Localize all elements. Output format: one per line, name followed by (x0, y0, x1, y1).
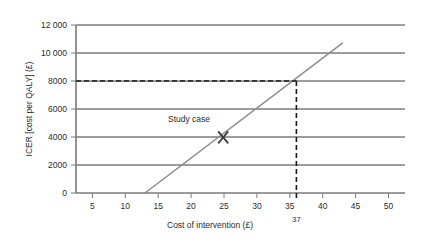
x-tick-label-45: 45 (351, 201, 361, 211)
y-tick-label-2000: 2000 (48, 160, 67, 170)
x-tick-label-5: 5 (90, 201, 95, 211)
y-tick-label-4000: 4000 (48, 132, 67, 142)
study-case-label: Study case (168, 114, 210, 124)
x-tick-label-25: 25 (219, 201, 229, 211)
y-tick-label-8000: 8000 (48, 76, 67, 86)
x-tick-label-15: 15 (153, 201, 163, 211)
icer-line-chart: 12 000 10 000 8000 6000 4000 2000 0 5 10… (0, 0, 422, 243)
y-axis-title: ICER [cost per QALY] (£) (24, 61, 34, 156)
y-tick-label-6000: 6000 (48, 104, 67, 114)
y-tick-label-12000: 12 000 (41, 20, 67, 30)
x-tick-label-20: 20 (186, 201, 196, 211)
y-tick-label-10000: 10 000 (41, 48, 67, 58)
x-tick-label-40: 40 (318, 201, 328, 211)
threshold-value-annotation: 37 (292, 215, 300, 224)
x-tick-label-35: 35 (285, 201, 295, 211)
y-tick-label-0: 0 (62, 188, 67, 198)
x-tick-label-10: 10 (121, 201, 131, 211)
x-tick-label-50: 50 (384, 201, 394, 211)
x-axis-title: Cost of intervention (£) (167, 220, 253, 230)
x-tick-label-30: 30 (252, 201, 262, 211)
chart-container: 12 000 10 000 8000 6000 4000 2000 0 5 10… (0, 0, 422, 243)
